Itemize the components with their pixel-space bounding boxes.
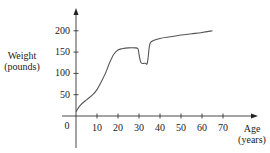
origin-label: 0 [62, 121, 72, 131]
x-axis-arrow-icon [251, 114, 258, 119]
y-tick-label: 200 [50, 26, 70, 36]
weight-curve [76, 31, 213, 112]
y-tick-label: 50 [50, 90, 70, 100]
x-axis-label-line2: (years) [234, 135, 270, 145]
x-tick-label: 40 [150, 123, 170, 133]
x-tick-label: 70 [213, 123, 233, 133]
y-tick-label: 150 [50, 47, 70, 57]
y-axis-label-line2: (pounds) [0, 62, 44, 72]
y-tick-label: 100 [50, 68, 70, 78]
y-axis-arrow-icon [74, 8, 79, 15]
x-tick-label: 10 [87, 123, 107, 133]
x-tick-label: 60 [192, 123, 212, 133]
x-tick-label: 50 [171, 123, 191, 133]
x-axis-label-line1: Age [234, 124, 270, 134]
y-axis-label-line1: Weight [0, 51, 44, 61]
x-tick-label: 30 [129, 123, 149, 133]
x-tick-label: 20 [108, 123, 128, 133]
